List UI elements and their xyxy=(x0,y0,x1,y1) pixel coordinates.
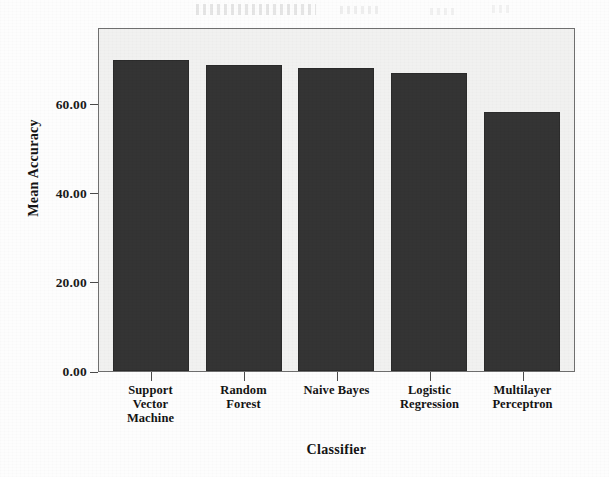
x-axis-category-line: Logistic xyxy=(385,383,475,397)
y-axis-tick-label: 0.00 xyxy=(63,364,90,380)
x-axis-tick-mark xyxy=(244,372,245,381)
x-axis-category-line: Machine xyxy=(106,411,196,425)
bar-slot xyxy=(391,29,467,371)
chart-page: Mean Accuracy 0.0020.0040.0060.00 Suppor… xyxy=(0,0,609,477)
x-axis-category-line: Random xyxy=(199,383,289,397)
x-axis-category-label: SupportVectorMachine xyxy=(106,383,196,425)
x-axis-category-line: Forest xyxy=(199,397,289,411)
bar xyxy=(206,65,282,371)
bar xyxy=(298,68,374,371)
scan-artifact xyxy=(340,6,380,14)
x-axis-category-line: Regression xyxy=(385,397,475,411)
bar xyxy=(484,112,560,371)
y-axis-tick-mark xyxy=(90,104,98,105)
bar xyxy=(391,73,467,371)
x-axis-tick-mark xyxy=(337,372,338,381)
x-axis-category-line: Perceptron xyxy=(478,397,568,411)
y-axis-tick-label: 20.00 xyxy=(56,275,90,291)
x-axis-category-label: MultilayerPerceptron xyxy=(478,383,568,425)
bar xyxy=(113,60,189,371)
y-axis-title: Mean Accuracy xyxy=(26,88,42,248)
x-axis-category-label: RandomForest xyxy=(199,383,289,425)
x-axis-ticks xyxy=(98,372,575,382)
x-axis-tick-mark xyxy=(430,372,431,381)
x-axis-title: Classifier xyxy=(98,442,575,458)
bar-series xyxy=(99,29,574,371)
y-axis-tick-mark xyxy=(90,372,98,373)
x-axis-category-label: LogisticRegression xyxy=(385,383,475,425)
bar-slot xyxy=(298,29,374,371)
x-axis-labels: SupportVectorMachineRandomForestNaive Ba… xyxy=(98,383,575,425)
bar-slot xyxy=(206,29,282,371)
scan-artifact xyxy=(430,8,456,15)
y-axis-tick-label: 60.00 xyxy=(56,97,90,113)
x-axis-tick-mark xyxy=(151,372,152,381)
scan-artifact xyxy=(196,4,316,15)
x-axis-tick-mark xyxy=(523,372,524,381)
x-axis-category-line: Support xyxy=(106,383,196,397)
x-axis-category-line: Vector xyxy=(106,397,196,411)
y-axis-tick-mark xyxy=(90,282,98,283)
bar-slot xyxy=(113,29,189,371)
scan-artifact xyxy=(492,5,510,13)
plot-area xyxy=(98,28,575,372)
y-axis-tick-label: 40.00 xyxy=(56,186,90,202)
y-axis-tick-mark xyxy=(90,193,98,194)
bar-slot xyxy=(484,29,560,371)
x-axis-category-line: Naive Bayes xyxy=(292,383,382,397)
y-axis-ticks: 0.0020.0040.0060.00 xyxy=(0,0,98,400)
x-axis-category-label: Naive Bayes xyxy=(292,383,382,425)
x-axis-category-line: Multilayer xyxy=(478,383,568,397)
